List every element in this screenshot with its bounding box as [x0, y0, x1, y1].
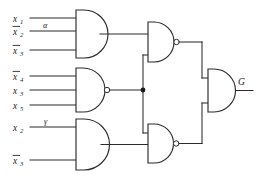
label-gamma: γ: [44, 117, 48, 126]
gate-b-input-labels: x 4 x 3 x 5: [12, 71, 24, 112]
label-b-in1-base: x: [12, 72, 18, 82]
gate-e-nand: [148, 103, 208, 163]
circuit-diagram: x 1 x 2 x 3 α x 4 x 3 x 5 x 2 x 3: [0, 0, 256, 181]
gate-f-output-and: [208, 69, 253, 112]
label-b-in1-sub: 4: [20, 76, 24, 83]
circuit-svg: x 1 x 2 x 3 α x 4 x 3 x 5 x 2 x 3: [0, 0, 256, 181]
label-a-in3-sub: 3: [19, 50, 24, 57]
gate-d-inversion-bubble: [174, 39, 179, 44]
gate-d-body: [148, 22, 174, 62]
label-b-in2-base: x: [12, 86, 18, 96]
label-a-in2-base: x: [12, 27, 18, 37]
label-c-in1-sub: 2: [20, 127, 24, 134]
wire-junction-dot: [141, 88, 146, 93]
label-b-in2-sub: 3: [19, 90, 24, 97]
label-output-g: G: [238, 76, 245, 87]
gate-c-and: [30, 119, 148, 170]
label-alpha: α: [43, 21, 48, 30]
label-a-in1-sub: 1: [20, 18, 23, 25]
label-c-in2-base: x: [12, 156, 18, 166]
gate-b-body: [76, 68, 105, 112]
label-b-in3-base: x: [12, 101, 18, 111]
gate-d-nand: [148, 22, 208, 78]
label-b-in3-sub: 5: [20, 105, 24, 112]
gate-e-inversion-bubble: [174, 141, 179, 146]
label-c-in2-sub: 3: [19, 160, 24, 167]
gate-a-and: [30, 10, 148, 58]
gate-b-fanout: [141, 55, 148, 133]
gate-b-inversion-bubble: [104, 87, 109, 92]
gate-e-body: [148, 124, 174, 163]
label-c-in1-base: x: [12, 123, 18, 133]
gate-f-body: [208, 69, 236, 112]
label-a-in3-base: x: [12, 46, 18, 56]
gate-b-nand: [30, 68, 143, 112]
label-a-in2-sub: 2: [20, 31, 24, 38]
label-a-in1-base: x: [12, 14, 18, 24]
